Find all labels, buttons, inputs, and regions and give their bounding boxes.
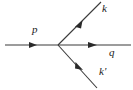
label-incoming-p: p: [32, 24, 38, 35]
outgoing-kprime-arrowhead-icon: [75, 62, 83, 70]
feynman-diagram: p k q k': [0, 0, 133, 90]
incoming-p-line: [5, 42, 58, 48]
incoming-p-arrowhead-icon: [29, 42, 37, 48]
label-outgoing-q: q: [109, 47, 115, 58]
outgoing-k-line: [58, 2, 101, 45]
outgoing-q-arrowhead-icon: [88, 42, 97, 48]
feynman-diagram-canvas: [0, 0, 133, 90]
label-outgoing-k-prime: k': [99, 66, 106, 77]
outgoing-kprime-line: [58, 45, 97, 88]
outgoing-q-line: [58, 42, 131, 48]
label-outgoing-k: k: [102, 3, 107, 14]
